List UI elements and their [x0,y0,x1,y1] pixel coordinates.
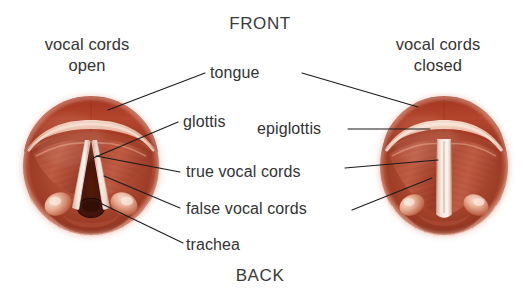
larynx-view-closed [379,96,509,243]
larynx-view-open [22,96,160,243]
caption-vocal-cords-open: vocal cords open [12,34,162,76]
label-false-vocal-cords: false vocal cords [186,199,307,218]
caption-vocal-cords-closed: vocal cords closed [362,34,514,76]
larynx-diagram: FRONT vocal cords open vocal cords close… [0,0,523,296]
orientation-back-label: BACK [210,266,310,285]
label-glottis: glottis [183,112,226,131]
label-true-vocal-cords: true vocal cords [186,162,301,181]
orientation-front-label: FRONT [210,14,310,33]
label-epiglottis: epiglottis [257,119,321,138]
label-tongue: tongue [210,63,260,82]
label-trachea: trachea [186,235,240,254]
